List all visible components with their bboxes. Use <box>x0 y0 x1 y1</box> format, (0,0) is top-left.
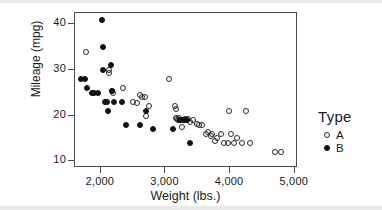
data-point-a <box>228 131 234 137</box>
x-axis-tick <box>229 167 230 173</box>
x-axis-tick <box>294 167 295 173</box>
data-point-a <box>247 140 253 146</box>
y-axis-tick-label: 10 <box>44 153 66 165</box>
y-axis-tick-label: 20 <box>44 108 66 120</box>
x-axis-tick-label: 3,000 <box>150 175 179 187</box>
data-point-b <box>137 122 143 128</box>
data-point-b <box>95 90 101 96</box>
data-point-b <box>82 76 88 82</box>
data-point-b <box>150 126 156 132</box>
scan-band-top <box>0 0 382 3</box>
data-point-a <box>83 49 89 55</box>
data-point-a <box>142 94 148 100</box>
y-axis-tick-label: 30 <box>44 62 66 74</box>
data-point-a <box>134 100 140 106</box>
data-point-a <box>225 140 231 146</box>
legend-title: Type <box>318 108 378 125</box>
x-axis-tick-label: 2,000 <box>86 175 115 187</box>
legend-item-b[interactable]: B <box>318 141 378 154</box>
legend-item-label: A <box>336 129 344 141</box>
x-axis-title: Weight (lbs.) <box>74 189 297 203</box>
legend: Type AB <box>318 108 378 154</box>
data-point-b <box>108 62 114 68</box>
y-axis-tick-label: 40 <box>44 16 66 28</box>
data-point-b <box>104 99 110 105</box>
data-point-b <box>100 44 106 50</box>
data-point-a <box>173 106 179 112</box>
legend-item-a[interactable]: A <box>318 128 378 141</box>
legend-items: AB <box>318 128 378 154</box>
data-point-a <box>120 85 126 91</box>
data-point-a <box>179 124 185 130</box>
data-point-a <box>199 122 205 128</box>
data-point-a <box>243 108 249 114</box>
scan-band-bottom <box>0 206 382 210</box>
data-point-b <box>100 67 106 73</box>
scatter-plot-figure: Mileage (mpg) 10203040 2,0003,0004,0005,… <box>0 0 382 210</box>
filled-circle-icon <box>324 145 330 151</box>
data-point-a <box>239 140 245 146</box>
data-point-b <box>184 117 190 123</box>
x-axis-tick <box>164 167 165 173</box>
data-point-b <box>111 99 117 105</box>
data-point-b <box>99 17 105 23</box>
data-point-b <box>119 99 125 105</box>
legend-item-label: B <box>336 142 344 154</box>
data-point-b <box>170 126 176 132</box>
open-circle-icon <box>324 132 330 138</box>
data-point-b <box>123 122 129 128</box>
data-point-a <box>226 108 232 114</box>
data-point-b <box>105 108 111 114</box>
data-point-a <box>278 149 284 155</box>
data-point-a <box>218 131 224 137</box>
data-point-b <box>143 108 149 114</box>
data-point-b <box>187 140 193 146</box>
x-axis-tick-label: 4,000 <box>215 175 244 187</box>
data-point-b <box>109 88 115 94</box>
plot-frame <box>74 12 297 167</box>
plot-data-area <box>75 13 296 166</box>
x-axis-tick-label: 5,000 <box>280 175 309 187</box>
data-point-a <box>166 76 172 82</box>
y-axis-title: Mileage (mpg) <box>29 0 43 119</box>
data-point-a <box>106 70 112 76</box>
x-axis-tick <box>100 167 101 173</box>
